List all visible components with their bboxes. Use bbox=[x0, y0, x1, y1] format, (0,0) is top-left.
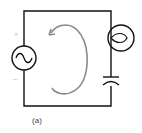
capacitor-icon bbox=[103, 77, 119, 85]
ac-source-icon bbox=[12, 46, 36, 70]
circuit-diagram: + − bbox=[0, 0, 142, 133]
figure-caption: (a) bbox=[0, 116, 74, 125]
lamp-icon bbox=[108, 25, 134, 51]
current-loop-arrow-icon bbox=[49, 25, 87, 94]
polarity-plus-label: + bbox=[14, 31, 18, 38]
polarity-minus-label: − bbox=[13, 75, 18, 84]
